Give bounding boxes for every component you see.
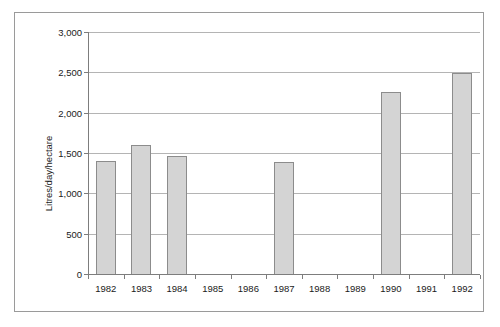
gridline <box>88 72 480 73</box>
x-axis-tick-label: 1992 <box>452 283 473 294</box>
x-axis-line <box>88 274 480 275</box>
bar-1987 <box>274 162 294 275</box>
y-axis-tick-label: 0 <box>77 269 82 280</box>
bar-1990 <box>381 92 401 275</box>
x-axis-tick-label: 1988 <box>309 283 330 294</box>
x-axis-tick <box>231 275 232 279</box>
x-axis-tick <box>159 275 160 279</box>
y-axis-tick-label: 2,500 <box>58 67 82 78</box>
x-axis-tick-label: 1989 <box>345 283 366 294</box>
x-axis-tick-label: 1985 <box>202 283 223 294</box>
x-axis-tick <box>409 275 410 279</box>
x-axis-tick <box>266 275 267 279</box>
chart-screenshot: 05001,0001,5002,0002,5003,000 1982198319… <box>0 0 500 327</box>
x-axis-tick <box>195 275 196 279</box>
y-axis-tick-label: 500 <box>66 228 82 239</box>
bar-1983 <box>131 145 151 275</box>
x-axis-tick <box>302 275 303 279</box>
y-axis-tick-label: 1,000 <box>58 188 82 199</box>
y-axis-tick <box>84 72 88 73</box>
x-axis-tick <box>337 275 338 279</box>
bar-1982 <box>96 161 116 275</box>
y-axis-title: Litres/day/hectare <box>43 94 54 254</box>
y-axis-title-wrapper: Litres/day/hectare <box>30 60 46 220</box>
y-axis-line <box>88 32 89 275</box>
y-axis-tick <box>84 32 88 33</box>
x-axis-tick-label: 1987 <box>273 283 294 294</box>
x-axis-tick-label: 1984 <box>167 283 188 294</box>
bar-1992 <box>452 73 472 275</box>
y-axis-tick <box>84 193 88 194</box>
plot-area <box>88 32 480 274</box>
x-axis-tick <box>444 275 445 279</box>
x-axis-tick-label: 1986 <box>238 283 259 294</box>
gridline <box>88 32 480 33</box>
x-axis-tick-label: 1982 <box>95 283 116 294</box>
y-axis-tick-label: 2,000 <box>58 107 82 118</box>
x-axis-tick-label: 1990 <box>380 283 401 294</box>
x-axis-tick <box>480 275 481 279</box>
x-axis-tick <box>373 275 374 279</box>
y-axis-tick <box>84 234 88 235</box>
gridline <box>88 113 480 114</box>
bar-1984 <box>167 156 187 275</box>
x-axis-tick <box>88 275 89 279</box>
x-axis-tick <box>124 275 125 279</box>
y-axis-tick-label: 1,500 <box>58 148 82 159</box>
x-axis-tick-label: 1991 <box>416 283 437 294</box>
y-axis-tick <box>84 113 88 114</box>
y-axis-tick <box>84 153 88 154</box>
x-axis-tick-label: 1983 <box>131 283 152 294</box>
y-axis-tick-label: 3,000 <box>58 27 82 38</box>
